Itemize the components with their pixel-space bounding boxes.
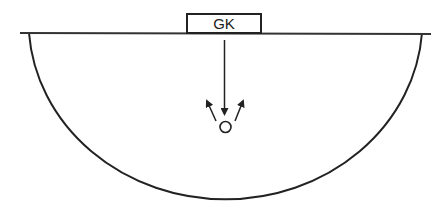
field-diagram: GK xyxy=(0,0,444,224)
player-marker xyxy=(220,122,231,133)
goalkeeper-label: GK xyxy=(213,15,235,32)
goalkeeper-box: GK xyxy=(187,14,261,33)
arrow-up-left-icon xyxy=(207,101,216,121)
semicircle-area xyxy=(29,33,422,199)
arrow-up-right-icon xyxy=(235,101,243,121)
